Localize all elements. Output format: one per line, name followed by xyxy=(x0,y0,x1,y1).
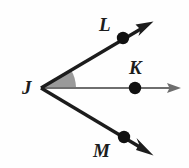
ray-jm-arrowhead xyxy=(136,138,154,156)
point-dot-k xyxy=(129,82,141,94)
point-label-l: L xyxy=(99,15,111,34)
point-label-j: J xyxy=(22,78,32,97)
point-label-m: M xyxy=(93,141,110,160)
point-dot-m xyxy=(118,131,130,143)
point-label-k: K xyxy=(129,58,142,77)
ray-jl xyxy=(41,22,154,89)
geometry-figure: J L K M xyxy=(0,0,189,168)
point-dot-l xyxy=(117,32,129,44)
